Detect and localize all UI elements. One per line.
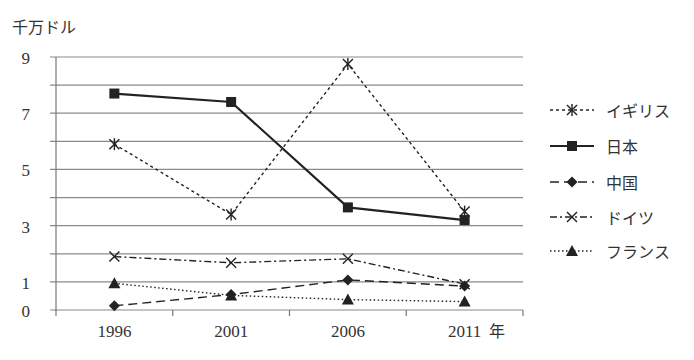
x-axis-tick-labels: 1996200120062011年 (97, 322, 504, 341)
legend-item-uk: イギリス (548, 92, 670, 128)
legend-marker-diamond-icon (548, 172, 596, 192)
svg-text:1: 1 (22, 274, 31, 293)
legend-marker-x-icon (548, 207, 596, 227)
legend-marker-triangle-icon (548, 241, 596, 261)
svg-text:2001: 2001 (214, 322, 248, 341)
svg-text:0: 0 (22, 302, 31, 321)
legend-label: フランス (606, 239, 670, 263)
legend-item-germany: ドイツ (548, 200, 670, 234)
legend-label: 中国 (606, 170, 638, 194)
legend-item-japan: 日本 (548, 128, 670, 164)
svg-text:年: 年 (489, 322, 505, 341)
svg-text:2006: 2006 (331, 322, 365, 341)
svg-text:5: 5 (22, 161, 31, 180)
x-axis-ticks (56, 310, 523, 316)
series-2 (109, 274, 470, 311)
legend-label: 日本 (606, 134, 638, 158)
legend-item-france: フランス (548, 234, 670, 268)
legend-item-china: 中国 (548, 164, 670, 200)
svg-text:9: 9 (22, 49, 31, 68)
svg-text:7: 7 (22, 105, 31, 124)
legend-label: ドイツ (606, 205, 654, 229)
svg-text:1996: 1996 (97, 322, 131, 341)
legend-marker-asterisk-icon (548, 100, 596, 120)
legend-label: イギリス (606, 98, 670, 122)
svg-text:2011: 2011 (448, 322, 481, 341)
legend-marker-square-icon (548, 136, 596, 156)
series-0 (109, 58, 469, 220)
y-axis-tick-labels: 013579 (22, 49, 31, 321)
series-1 (109, 89, 469, 226)
svg-text:3: 3 (22, 218, 31, 237)
legend: イギリス 日本 中国 ドイツ フランス (548, 92, 670, 268)
